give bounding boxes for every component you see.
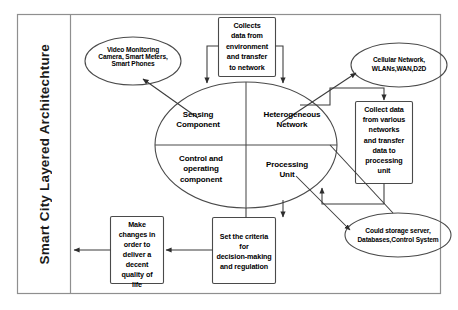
connector-heterogeneous-to-cellular	[282, 73, 356, 122]
set-criteria-box	[213, 218, 276, 284]
diagram-canvas: Smart City Layered Architechture Video M…	[0, 0, 458, 310]
video-monitoring-ellipse	[85, 37, 181, 85]
side-title-text: Smart City Layered Architechture	[37, 44, 52, 264]
connector-sensing-to-video-monitoring	[143, 79, 198, 118]
connector-collects-to-sensing	[207, 46, 219, 83]
collect-various-networks-box	[356, 102, 413, 184]
collects-data-box	[219, 18, 276, 77]
connector-collects-to-heterogeneous	[276, 46, 284, 83]
diagram-vector-layer	[0, 0, 458, 310]
connector-processing-to-cloud-storage	[296, 176, 350, 230]
cellular-network-ellipse	[351, 43, 447, 87]
side-title: Smart City Layered Architechture	[20, 16, 68, 292]
make-changes-box	[111, 217, 164, 284]
cloud-storage-ellipse	[345, 213, 451, 257]
